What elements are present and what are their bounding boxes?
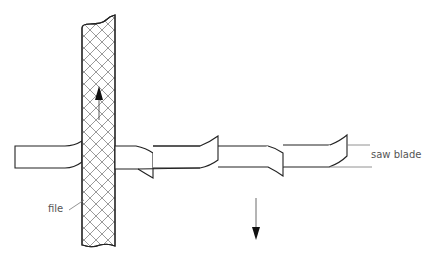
saw-sharpening-diagram bbox=[0, 0, 430, 261]
blade-body bbox=[153, 136, 218, 168]
down-arrow-icon bbox=[252, 198, 260, 240]
blade-left-segment bbox=[15, 141, 82, 168]
saw-tooth bbox=[218, 146, 283, 176]
saw-tooth bbox=[283, 135, 347, 167]
file bbox=[82, 15, 115, 250]
saw-blade bbox=[15, 141, 82, 168]
saw-blade-teeth bbox=[115, 135, 347, 178]
saw-blade-label: saw blade bbox=[371, 149, 421, 160]
file-label: file bbox=[48, 203, 63, 214]
saw-tooth bbox=[115, 146, 153, 178]
